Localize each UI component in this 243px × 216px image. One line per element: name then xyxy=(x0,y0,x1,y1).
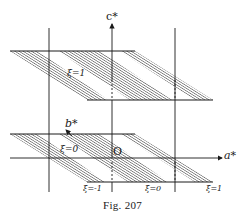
lower-plane-inner-label: ξ=0 xyxy=(60,145,78,154)
upper-plane xyxy=(10,51,213,100)
band-label-zero: ξ=0 xyxy=(145,185,161,193)
figure-caption: Fig. 207 xyxy=(103,200,142,211)
a-star-label: a* xyxy=(224,150,236,161)
band-label-one: ξ=1 xyxy=(206,185,222,193)
origin-label: O xyxy=(113,146,122,157)
band-label-minus-one: ξ=-1 xyxy=(83,185,102,193)
b-star-label: b* xyxy=(65,118,78,129)
upper-plane-label: ξ=1 xyxy=(67,69,85,78)
c-star-label: c* xyxy=(106,11,118,22)
